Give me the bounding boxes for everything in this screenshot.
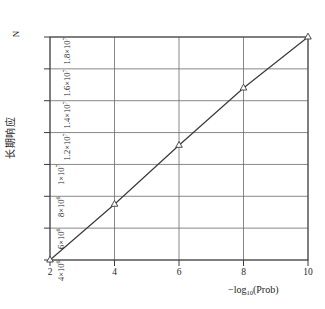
x-tick-label: 6 <box>164 267 194 277</box>
y-tick-exponent: 7 <box>62 101 68 104</box>
y-tick-mantissa: 1.2×10 <box>62 136 72 160</box>
y-tick-exponent: 6 <box>55 197 61 200</box>
y-tick-exponent: 7 <box>62 38 68 41</box>
x-tick-label: 2 <box>35 267 65 277</box>
x-tick-label: 8 <box>229 267 259 277</box>
y-tick-label: 6×106 <box>57 229 66 250</box>
data-point-marker <box>305 33 312 39</box>
y-tick-exponent: 6 <box>55 261 61 264</box>
y-tick-exponent: 6 <box>55 229 61 232</box>
y-tick-label: 1.6×107 <box>63 69 72 96</box>
y-axis-symbol-label: N <box>11 31 21 38</box>
plot-canvas <box>0 0 325 309</box>
y-tick-mantissa: 1.6×10 <box>62 72 72 96</box>
y-tick-mantissa: 1.4×10 <box>62 104 72 128</box>
chart-figure: 长期响应 N 1.8×107 1.6×107 1.4×107 1.2×107 1… <box>0 0 325 309</box>
x-axis-title: −log10(Prob) <box>228 284 278 296</box>
y-tick-exponent: 7 <box>62 69 68 72</box>
y-tick-mantissa: 6×10 <box>56 232 66 250</box>
y-tick-exponent: 7 <box>62 133 68 136</box>
x-axis-title-suffix: (Prob) <box>253 284 279 295</box>
y-tick-label: 1.2×107 <box>63 133 72 160</box>
y-tick-mantissa: 8×10 <box>56 200 66 218</box>
y-tick-exponent: 7 <box>55 165 61 168</box>
y-tick-mantissa: 1×10 <box>56 168 66 186</box>
y-axis-title-cn: 长期响应 <box>5 98 16 178</box>
x-axis-title-prefix: −log <box>228 284 246 295</box>
y-tick-label: 1.8×107 <box>63 38 72 65</box>
y-tick-label: 1.4×107 <box>63 101 72 128</box>
y-tick-marks <box>44 37 50 260</box>
y-tick-mantissa: 1.8×10 <box>62 41 72 65</box>
x-tick-label: 10 <box>293 267 323 277</box>
y-tick-label: 1×107 <box>57 165 66 186</box>
y-tick-label: 8×106 <box>57 197 66 218</box>
x-tick-label: 4 <box>100 267 130 277</box>
x-tick-marks <box>50 260 308 266</box>
